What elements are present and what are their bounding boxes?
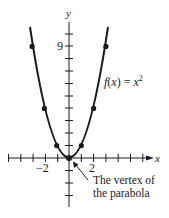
parabola-diagram: y x 9 −2 2 f(x) = x2 The vertex of the p… bbox=[0, 0, 169, 218]
x-axis bbox=[8, 154, 154, 162]
point-3-9 bbox=[103, 44, 108, 49]
point-neg3-9 bbox=[29, 44, 34, 49]
point-neg1-1 bbox=[54, 143, 59, 148]
vertex-annotation-line2: the parabola bbox=[93, 187, 150, 200]
point-vertex bbox=[66, 155, 72, 161]
point-neg2-4 bbox=[42, 106, 47, 111]
x-tick-label-neg2: −2 bbox=[36, 161, 49, 175]
vertex-annotation-arrow-icon bbox=[73, 162, 88, 181]
x-axis-arrow-icon bbox=[146, 156, 154, 161]
x-axis-label: x bbox=[154, 152, 160, 164]
vertex-annotation-line1: The vertex of bbox=[93, 174, 155, 186]
y-axis bbox=[65, 22, 73, 207]
y-tick-label-9: 9 bbox=[57, 39, 63, 53]
function-label: f(x) = x2 bbox=[104, 74, 143, 89]
point-2-4 bbox=[91, 106, 96, 111]
x-tick-label-2: 2 bbox=[89, 161, 95, 175]
y-axis-label: y bbox=[65, 7, 71, 19]
point-1-1 bbox=[79, 143, 84, 148]
